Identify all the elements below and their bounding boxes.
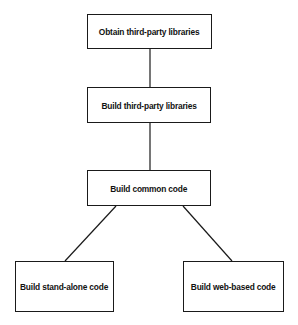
- node-obtain-third-party-libraries: Obtain third-party libraries: [87, 14, 212, 49]
- node-label: Build third-party libraries: [101, 100, 196, 111]
- node-label: Build stand-alone code: [20, 281, 108, 292]
- node-label: Obtain third-party libraries: [99, 26, 200, 37]
- node-label: Build common code: [111, 183, 188, 194]
- node-label: Build web-based code: [191, 281, 276, 292]
- node-build-third-party-libraries: Build third-party libraries: [87, 87, 211, 123]
- edge-build-common-to-web: [183, 206, 232, 261]
- edge-build-common-to-standalone: [65, 206, 116, 261]
- node-build-web-based-code: Build web-based code: [183, 261, 284, 312]
- build-flow-diagram: Obtain third-party libraries Build third…: [0, 0, 298, 325]
- node-build-common-code: Build common code: [87, 170, 211, 206]
- node-build-stand-alone-code: Build stand-alone code: [15, 261, 114, 312]
